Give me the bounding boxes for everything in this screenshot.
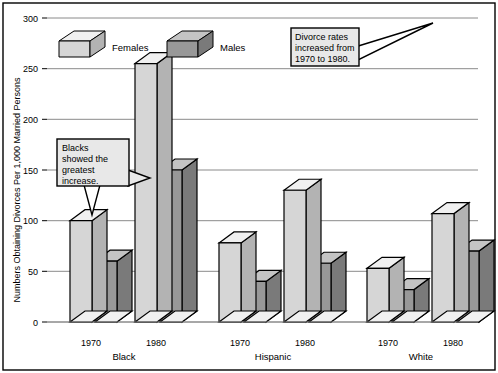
ytick-label-150: 150 bbox=[23, 166, 38, 176]
ytick-label-250: 250 bbox=[23, 64, 38, 74]
ytick-label-200: 200 bbox=[23, 115, 38, 125]
xtick-label-hispanic-1970: 1970 bbox=[230, 338, 250, 348]
xtick-label-white-1980: 1980 bbox=[443, 338, 463, 348]
bar-females-5 bbox=[432, 203, 469, 322]
legend-label-males: Males bbox=[220, 42, 246, 53]
xtick-label-black-1970: 1970 bbox=[81, 338, 101, 348]
divorce-rates-bar-chart: 300 250 200 150 100 50 0 Numbers Obtaini… bbox=[0, 0, 498, 373]
ytick-label-300: 300 bbox=[23, 14, 38, 24]
bar-females-3 bbox=[284, 179, 321, 322]
legend-label-females: Females bbox=[112, 42, 149, 53]
group-label-hispanic: Hispanic bbox=[255, 351, 292, 362]
callout-blacks-line4: increase. bbox=[62, 176, 99, 186]
bar-females-1 bbox=[135, 53, 172, 322]
bar-females-2 bbox=[219, 232, 256, 322]
group-label-black: Black bbox=[112, 351, 135, 362]
callout-blacks-line1: Blacks bbox=[62, 143, 89, 153]
callout-blacks-line3: greatest bbox=[62, 165, 95, 175]
ytick-label-0: 0 bbox=[33, 318, 38, 328]
callout-divorce-line1: Divorce rates bbox=[295, 32, 349, 42]
bar-females-0 bbox=[70, 210, 107, 322]
callout-blacks-line2: showed the bbox=[62, 154, 108, 164]
ytick-label-100: 100 bbox=[23, 216, 38, 226]
group-label-white: White bbox=[409, 351, 433, 362]
callout-divorce-line3: 1970 to 1980. bbox=[295, 54, 350, 64]
y-axis-title: Numbers Obtaining Divorces Per 1,000 Mar… bbox=[12, 77, 22, 303]
ytick-label-50: 50 bbox=[28, 267, 38, 277]
chart-container: 300 250 200 150 100 50 0 Numbers Obtaini… bbox=[0, 0, 498, 373]
xtick-label-hispanic-1980: 1980 bbox=[295, 338, 315, 348]
xtick-label-black-1980: 1980 bbox=[146, 338, 166, 348]
xtick-label-white-1970: 1970 bbox=[378, 338, 398, 348]
callout-divorce-line2: increased from bbox=[295, 43, 355, 53]
